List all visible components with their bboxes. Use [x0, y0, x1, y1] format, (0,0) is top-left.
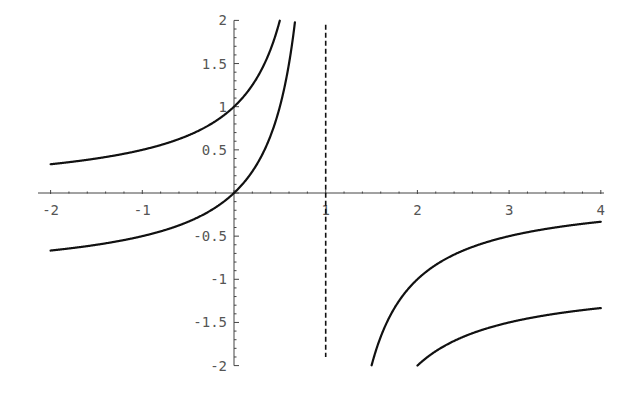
x-tick-label: -2 — [42, 202, 59, 218]
function-plot: -2-1123421.510.5-0.5-1-1.5-2 — [0, 0, 639, 400]
y-tick-label: -1.5 — [193, 314, 227, 330]
y-tick-label: 1.5 — [202, 56, 227, 72]
axes — [38, 20, 604, 365]
y-tick-label: -0.5 — [193, 228, 227, 244]
x-tick-label: 3 — [505, 202, 513, 218]
x-tick-label: 4 — [597, 202, 605, 218]
curve-a-left-branch — [51, 21, 280, 165]
x-tick-label: -1 — [134, 202, 151, 218]
y-tick-label: 2 — [219, 12, 227, 28]
curve-a-right-branch — [372, 222, 601, 366]
y-tick-label: 1 — [219, 99, 227, 115]
curve-b-left-branch — [51, 22, 295, 250]
curve-b-right-branch — [417, 308, 600, 365]
x-tick-label: 2 — [413, 202, 421, 218]
y-tick-label: -1 — [210, 271, 227, 287]
y-tick-label: 0.5 — [202, 142, 227, 158]
y-tick-label: -2 — [210, 358, 227, 374]
